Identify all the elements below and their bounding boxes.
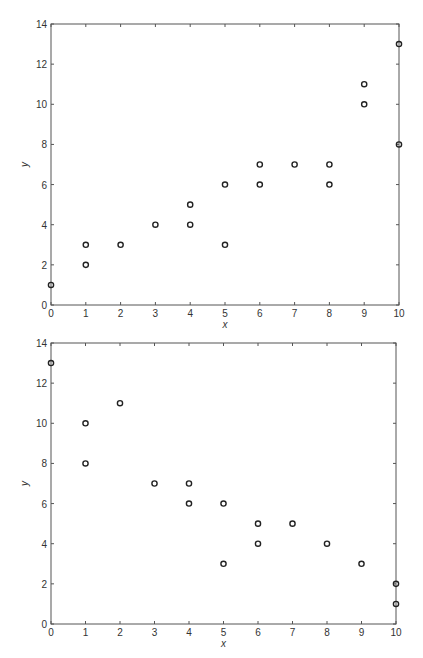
data-point bbox=[83, 461, 88, 466]
y-tick-label: 14 bbox=[36, 338, 48, 349]
data-point bbox=[221, 501, 226, 506]
x-tick-label: 1 bbox=[83, 627, 89, 638]
data-point bbox=[327, 182, 332, 187]
x-tick-label: 8 bbox=[327, 308, 333, 319]
x-axis-label: x bbox=[222, 319, 229, 330]
data-point bbox=[186, 481, 191, 486]
data-point bbox=[117, 401, 122, 406]
x-tick-label: 2 bbox=[117, 627, 123, 638]
y-axis-label: y bbox=[19, 161, 30, 168]
data-point bbox=[83, 242, 88, 247]
y-tick-label: 8 bbox=[41, 458, 47, 469]
data-point bbox=[186, 501, 191, 506]
y-tick-label: 0 bbox=[41, 300, 47, 311]
y-tick-label: 4 bbox=[41, 539, 47, 550]
data-point bbox=[257, 182, 262, 187]
y-tick-label: 12 bbox=[36, 378, 48, 389]
data-point bbox=[188, 222, 193, 227]
x-tick-label: 4 bbox=[187, 308, 193, 319]
data-point bbox=[221, 561, 226, 566]
y-tick-label: 12 bbox=[36, 59, 48, 70]
data-point bbox=[327, 162, 332, 167]
y-tick-label: 10 bbox=[36, 418, 48, 429]
data-point bbox=[257, 162, 262, 167]
x-tick-label: 7 bbox=[290, 627, 296, 638]
x-tick-label: 0 bbox=[48, 308, 54, 319]
data-point bbox=[83, 262, 88, 267]
x-tick-label: 9 bbox=[361, 308, 367, 319]
x-tick-label: 1 bbox=[83, 308, 89, 319]
x-tick-label: 7 bbox=[292, 308, 298, 319]
data-point bbox=[118, 242, 123, 247]
y-tick-label: 6 bbox=[41, 499, 47, 510]
y-tick-label: 0 bbox=[41, 619, 47, 630]
scatter-plot-bottom: 01234567891002468101214xy bbox=[19, 338, 402, 649]
data-point bbox=[83, 421, 88, 426]
x-tick-label: 0 bbox=[48, 627, 54, 638]
x-tick-label: 2 bbox=[118, 308, 124, 319]
data-point bbox=[152, 481, 157, 486]
y-tick-label: 2 bbox=[41, 260, 47, 271]
x-tick-label: 5 bbox=[222, 308, 228, 319]
data-point bbox=[324, 541, 329, 546]
x-tick-label: 3 bbox=[153, 308, 159, 319]
data-point bbox=[188, 202, 193, 207]
x-tick-label: 9 bbox=[359, 627, 365, 638]
data-point bbox=[222, 242, 227, 247]
y-tick-label: 8 bbox=[41, 139, 47, 150]
x-tick-label: 8 bbox=[324, 627, 330, 638]
y-tick-label: 14 bbox=[36, 19, 48, 30]
data-point bbox=[292, 162, 297, 167]
x-tick-label: 10 bbox=[390, 627, 402, 638]
x-tick-label: 6 bbox=[255, 627, 261, 638]
data-point bbox=[362, 102, 367, 107]
plot-frame bbox=[51, 343, 396, 624]
x-tick-label: 5 bbox=[221, 627, 227, 638]
y-tick-label: 2 bbox=[41, 579, 47, 590]
data-point bbox=[255, 521, 260, 526]
y-tick-label: 10 bbox=[36, 99, 48, 110]
plot-frame bbox=[51, 24, 399, 305]
x-tick-label: 10 bbox=[393, 308, 405, 319]
data-point bbox=[362, 82, 367, 87]
y-tick-label: 6 bbox=[41, 180, 47, 191]
scatter-plot-top: 01234567891002468101214xy bbox=[19, 19, 405, 330]
data-point bbox=[153, 222, 158, 227]
y-tick-label: 4 bbox=[41, 220, 47, 231]
data-point bbox=[222, 182, 227, 187]
x-tick-label: 3 bbox=[152, 627, 158, 638]
data-point bbox=[359, 561, 364, 566]
x-axis-label: x bbox=[220, 638, 227, 649]
scatter-charts: 01234567891002468101214xy 01234567891002… bbox=[0, 0, 423, 658]
x-tick-label: 4 bbox=[186, 627, 192, 638]
data-point bbox=[290, 521, 295, 526]
y-axis-label: y bbox=[19, 480, 30, 487]
data-point bbox=[255, 541, 260, 546]
x-tick-label: 6 bbox=[257, 308, 263, 319]
